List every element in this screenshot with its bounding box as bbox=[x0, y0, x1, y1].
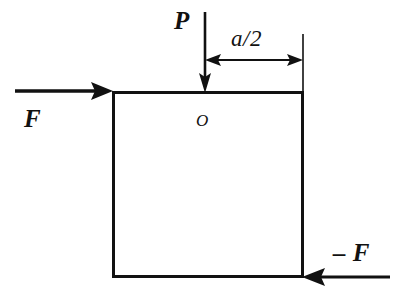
force-p-label: P bbox=[174, 8, 190, 33]
free-body-diagram: P F – F O a/2 bbox=[0, 0, 406, 303]
origin-point-label: O bbox=[196, 112, 208, 129]
force-neg-f-label: – F bbox=[333, 240, 370, 265]
force-f-label: F bbox=[24, 106, 41, 131]
dimension-a-half-label: a/2 bbox=[231, 27, 262, 50]
